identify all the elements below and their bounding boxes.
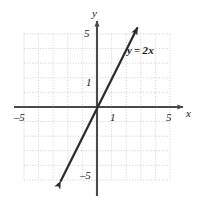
x-tick-label-1: 1 [110, 112, 115, 123]
graph-figure: y x 5 1 –5 –5 1 5 y=2x [0, 0, 198, 201]
y-axis-label: y [92, 8, 97, 19]
y-tick-label-neg5: –5 [80, 170, 91, 181]
x-tick-label-5: 5 [166, 112, 171, 123]
equation-lhs: y [127, 44, 132, 56]
x-axis-label: x [186, 108, 191, 119]
x-tick-label-neg5: –5 [14, 112, 25, 123]
y-tick-label-1: 1 [86, 77, 91, 88]
line-equation-label: y=2x [127, 45, 154, 56]
y-tick-label-5: 5 [84, 28, 89, 39]
equation-equals-sign: = [134, 44, 140, 56]
coordinate-plane-svg [0, 0, 198, 201]
equation-rhs: 2x [143, 44, 154, 56]
